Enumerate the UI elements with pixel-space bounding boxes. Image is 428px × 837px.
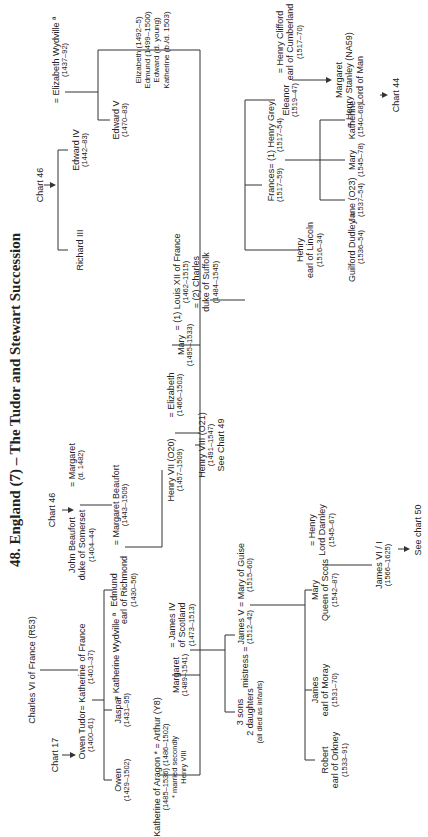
person-edmund: Edmundearl of Richmond(1430–56): [109, 556, 138, 624]
person-john-beaufort: John Beaufortduke of Somerset(1404–44): [67, 510, 96, 581]
list-other-children: Elizabeth (1492–5) Edmund (1499–1500) Ed…: [134, 11, 171, 88]
chart-title: 48. England (7) – The Tudor and Stewart …: [7, 233, 24, 567]
person-guilford-dudley: Guilford Dudley =(1536–54): [347, 212, 366, 282]
person-margaret-beaufort: = Margaret Beaufort(1443–1509): [111, 465, 130, 545]
person-henry-lincoln: Henryearl of Lincoln(1516–34): [295, 222, 324, 278]
person-richard-iii: Richard III: [75, 229, 85, 270]
person-james-iv: = James IVof Scotland(1473–1513): [167, 602, 196, 647]
person-mistress: mistress =: [240, 646, 250, 687]
person-louis-xii-charles-suffolk: = (1) Louis XII of France(1462–1515)= (2…: [172, 234, 220, 331]
person-elizabeth-of-york: = Elizabeth(1466–1503): [166, 373, 185, 418]
person-james-vi-i: James VI / I(1566–1625): [374, 541, 393, 589]
person-mary-grey: Mary(1545–78): [347, 143, 366, 177]
person-lord-darnley: = HenryLord Darnley(1545–67): [307, 504, 336, 556]
chart-49-reference[interactable]: See Chart 49: [216, 412, 226, 478]
chart-17-reference[interactable]: Chart 17: [50, 738, 60, 773]
person-henry-vii: Henry VII (O20)(1457–1509): [166, 438, 185, 501]
person-edward-iv: Edward IV(1442–83): [71, 129, 90, 171]
chart-46-beaufort-reference[interactable]: Chart 46: [47, 493, 57, 528]
person-owen: Owen(1429–1502): [113, 759, 132, 802]
chart-44-reference[interactable]: Chart 44: [391, 78, 401, 113]
person-margaret-stanley: Margaret= Henry Stanley (NA59)Lord of Ma…: [334, 32, 365, 127]
person-owen-tudor: Owen Tudor(1400–61): [77, 710, 96, 759]
person-mary-of-guise: = Mary of Guise(1515–60): [236, 543, 255, 607]
person-robert-orkney: Robertearl of Orkney(1533–91): [320, 732, 349, 789]
person-eleanor: Eleanor(1519–47): [281, 83, 300, 117]
person-henry-clifford: = Henry Cliffordearl of Cumberland(1517–…: [275, 4, 304, 81]
person-james-v: James V(1512–42): [236, 609, 255, 644]
person-lady-jane-grey: Jane (O23)(1537–54): [347, 177, 366, 222]
person-frances: Frances(1517–59): [266, 168, 285, 202]
person-edward-v: Edward V(1470–83): [111, 100, 130, 139]
person-katherine-of-france: = Katherine of France(1401–37): [77, 624, 96, 711]
person-margaret-d1482: = Margaret(d. 1482): [67, 443, 86, 487]
person-katherine-of-aragon-arthur: Katherine of Aragon * = Arthur (Y8)(1485…: [152, 697, 188, 836]
person-katherine-wydville: = Katherine Wydville ª: [111, 613, 121, 701]
person-charles-vi: Charles VI of France (R53): [27, 616, 37, 724]
person-elizabeth-wydville: = Elizabeth Wydville ª(1437–92): [51, 17, 70, 104]
chart-46-york-reference[interactable]: Chart 46: [35, 168, 45, 203]
person-margaret-tudor: Margaret(1489–1541): [171, 654, 190, 697]
person-mary-queen-of-scots: MaryQueen of Scots(1542–87): [310, 559, 339, 621]
person-james-moray: Jamesearl of Moray(1531–70): [310, 664, 339, 717]
group-infants: 3 sons2 daughters(all died as infants): [235, 681, 264, 744]
chart-50-reference[interactable]: See chart 50: [413, 504, 423, 555]
person-henry-viii: Henry VIII (O21)(1491–1547)See Chart 49: [197, 412, 226, 478]
